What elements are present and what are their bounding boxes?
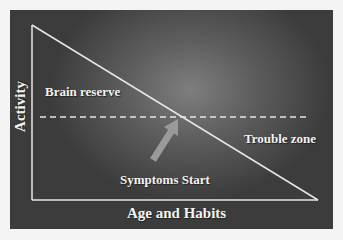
symptoms-start-label: Symptoms Start	[120, 172, 210, 188]
x-axis-label: Age and Habits	[127, 205, 226, 222]
diagram-lines	[0, 0, 343, 240]
y-axis-label: Activity	[12, 81, 29, 132]
brain-reserve-label: Brain reserve	[45, 84, 120, 100]
arrow-icon	[153, 119, 178, 160]
trouble-zone-label: Trouble zone	[244, 131, 316, 147]
